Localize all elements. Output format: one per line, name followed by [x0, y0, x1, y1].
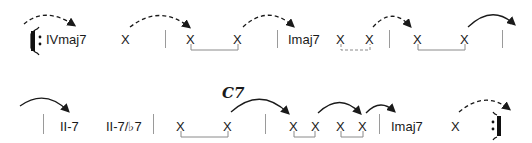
solid-arrow — [318, 103, 360, 114]
bracket — [294, 131, 315, 137]
start-repeat-icon — [31, 27, 41, 55]
end-repeat-icon — [492, 112, 501, 140]
bracket — [181, 131, 228, 137]
solid-arrow — [20, 98, 68, 111]
bracket — [341, 131, 363, 137]
solid-arrow — [468, 15, 514, 27]
bracket — [191, 44, 238, 50]
bracket-dashed — [341, 44, 370, 50]
diagram-overlay — [0, 0, 532, 143]
bracket — [418, 44, 465, 50]
solid-arrow — [366, 105, 394, 113]
dashed-arrow — [373, 16, 410, 27]
dashed-arrow — [130, 16, 189, 28]
dashed-arrow — [24, 15, 74, 25]
dashed-arrow — [243, 15, 293, 27]
dashed-arrow — [459, 100, 509, 112]
solid-arrow — [231, 99, 288, 113]
